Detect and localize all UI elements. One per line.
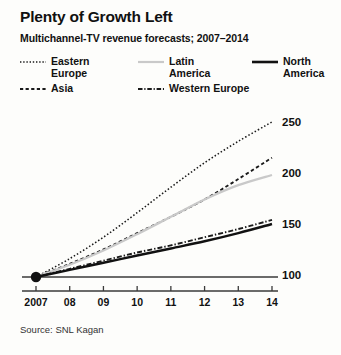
x-axis-tick-label: 10 (120, 296, 154, 308)
chart-plot-area: 100150200250200708091011121314 (0, 0, 341, 355)
x-axis-tick-label: 08 (53, 296, 87, 308)
x-axis-tick-label: 12 (188, 296, 222, 308)
chart-source-note: Source: SNL Kagan (20, 324, 104, 335)
series-line-eastern-europe (36, 122, 272, 277)
x-axis-tick-label: 11 (154, 296, 188, 308)
x-axis-tick-label: 13 (221, 296, 255, 308)
series-line-asia (36, 158, 272, 277)
x-axis-tick-label: 09 (86, 296, 120, 308)
y-axis-tick-label: 150 (282, 218, 322, 230)
origin-marker-dot (31, 272, 41, 282)
series-line-latin-america (36, 175, 272, 277)
series-line-north-america (36, 224, 272, 277)
x-axis-tick-label: 14 (255, 296, 289, 308)
y-axis-tick-label: 200 (282, 167, 322, 179)
y-axis-tick-label: 250 (282, 116, 322, 128)
y-axis-tick-label: 100 (282, 269, 322, 281)
chart-figure: Plenty of Growth Left Multichannel-TV re… (0, 0, 341, 355)
x-axis-tick-label: 2007 (19, 296, 53, 308)
